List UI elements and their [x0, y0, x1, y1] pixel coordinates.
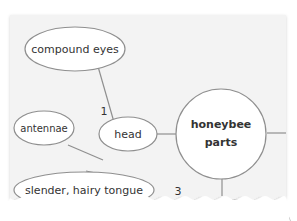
label-center-1: honeybee [191, 118, 252, 131]
number-3: 3 [175, 185, 182, 198]
label-center-2: parts [205, 136, 238, 149]
number-1: 1 [101, 105, 108, 118]
torn-edge [0, 196, 290, 221]
label-tongue: slender, hairy tongue [25, 184, 143, 197]
label-compound-eyes: compound eyes [31, 43, 119, 56]
concept-map: compound eyes antennae head slender, hai… [0, 0, 297, 221]
label-antennae: antennae [20, 123, 68, 134]
label-head: head [114, 128, 141, 141]
node-center [176, 89, 266, 179]
